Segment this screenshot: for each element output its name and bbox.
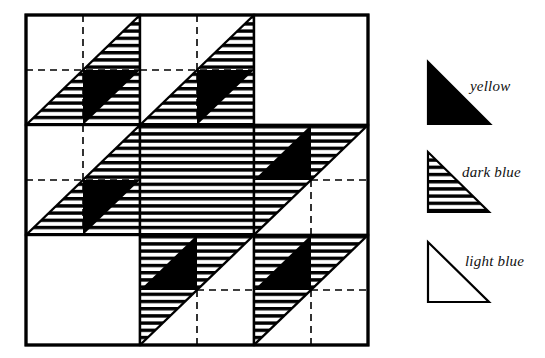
legend-label-yellow: yellow <box>470 78 510 95</box>
block-bottom-right[interactable] <box>254 235 368 345</box>
block-top-left[interactable] <box>26 15 140 125</box>
legend-label-dark-blue: dark blue <box>462 164 521 181</box>
block-top-center[interactable] <box>140 15 254 125</box>
block-bottom-center[interactable] <box>140 235 254 345</box>
quilt-grid <box>26 15 368 345</box>
legend-swatch-light-blue <box>428 242 489 302</box>
block-middle-right[interactable] <box>254 125 368 235</box>
legend-label-light-blue: light blue <box>465 253 524 270</box>
block-bottom-left[interactable] <box>26 235 140 345</box>
block-center[interactable] <box>140 125 254 235</box>
block-middle-left[interactable] <box>26 125 140 235</box>
legend-swatch-dark-blue <box>428 152 489 212</box>
diagram-canvas: yellow dark blue light blue <box>0 0 545 358</box>
block-top-right[interactable] <box>254 15 368 125</box>
